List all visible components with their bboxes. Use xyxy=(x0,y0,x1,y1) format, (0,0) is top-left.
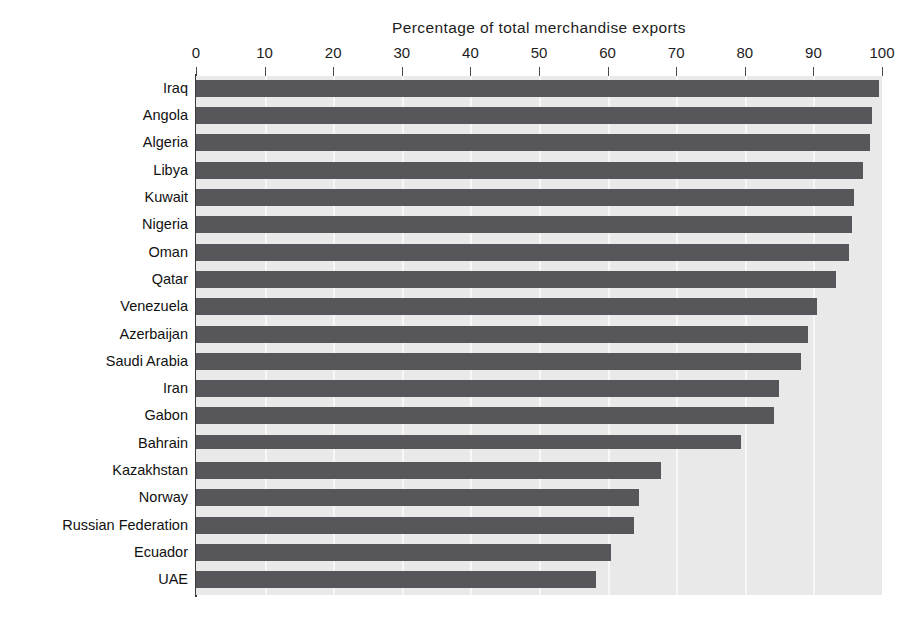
bar-libya xyxy=(196,162,863,179)
category-label-norway: Norway xyxy=(139,489,188,506)
category-label-russian-federation: Russian Federation xyxy=(62,517,188,534)
bar-oman xyxy=(196,244,849,261)
category-label-azerbaijan: Azerbaijan xyxy=(119,326,188,343)
bar-algeria xyxy=(196,134,870,151)
x-tick-mark-50 xyxy=(539,67,540,76)
category-label-qatar: Qatar xyxy=(152,271,188,288)
bar-ecuador xyxy=(196,544,611,561)
bar-norway xyxy=(196,489,639,506)
bar-kazakhstan xyxy=(196,462,661,479)
category-label-libya: Libya xyxy=(153,162,188,179)
bar-angola xyxy=(196,107,872,124)
x-tick-mark-30 xyxy=(402,67,403,76)
bar-bahrain xyxy=(196,435,741,449)
x-tick-label-60: 60 xyxy=(599,44,616,61)
x-axis-tick-marks xyxy=(0,67,920,76)
x-tick-mark-60 xyxy=(608,67,609,76)
category-label-algeria: Algeria xyxy=(143,134,188,151)
x-tick-mark-10 xyxy=(265,67,266,76)
bar-qatar xyxy=(196,271,836,288)
x-tick-mark-40 xyxy=(470,67,471,76)
category-label-uae: UAE xyxy=(158,571,188,588)
category-axis-labels: IraqAngolaAlgeriaLibyaKuwaitNigeriaOmanQ… xyxy=(0,76,188,595)
x-tick-label-40: 40 xyxy=(462,44,479,61)
plot-area xyxy=(196,76,882,595)
x-tick-label-0: 0 xyxy=(192,44,200,61)
x-tick-label-10: 10 xyxy=(256,44,273,61)
bar-kuwait xyxy=(196,189,854,206)
bar-chart: Percentage of total merchandise exports … xyxy=(0,0,920,627)
category-label-oman: Oman xyxy=(149,244,189,261)
bar-iran xyxy=(196,380,779,397)
category-label-kuwait: Kuwait xyxy=(144,189,188,206)
x-tick-label-80: 80 xyxy=(736,44,753,61)
bar-azerbaijan xyxy=(196,326,808,343)
category-label-bahrain: Bahrain xyxy=(138,435,188,452)
bar-uae xyxy=(196,571,596,588)
category-label-nigeria: Nigeria xyxy=(142,216,188,233)
x-axis-tick-labels: 0102030405060708090100 xyxy=(0,44,920,66)
x-tick-label-70: 70 xyxy=(668,44,685,61)
bar-venezuela xyxy=(196,298,817,315)
x-tick-mark-70 xyxy=(676,67,677,76)
bar-iraq xyxy=(196,80,879,97)
category-label-ecuador: Ecuador xyxy=(134,544,188,561)
bar-gabon xyxy=(196,407,774,424)
bar-russian-federation xyxy=(196,517,634,534)
bar-saudi-arabia xyxy=(196,353,801,370)
category-label-kazakhstan: Kazakhstan xyxy=(112,462,188,479)
bar-nigeria xyxy=(196,216,852,233)
category-label-iraq: Iraq xyxy=(163,80,188,97)
x-tick-label-100: 100 xyxy=(869,44,894,61)
x-tick-label-90: 90 xyxy=(805,44,822,61)
chart-title: Percentage of total merchandise exports xyxy=(196,19,882,37)
x-tick-label-20: 20 xyxy=(325,44,342,61)
gridline-90 xyxy=(813,76,815,595)
category-label-angola: Angola xyxy=(143,107,188,124)
x-tick-mark-100 xyxy=(882,67,883,76)
category-label-gabon: Gabon xyxy=(144,407,188,424)
x-tick-mark-20 xyxy=(333,67,334,76)
category-label-saudi-arabia: Saudi Arabia xyxy=(106,353,188,370)
x-tick-mark-80 xyxy=(745,67,746,76)
category-label-venezuela: Venezuela xyxy=(120,298,188,315)
category-label-iran: Iran xyxy=(163,380,188,397)
x-tick-label-30: 30 xyxy=(393,44,410,61)
x-tick-mark-90 xyxy=(813,67,814,76)
x-tick-label-50: 50 xyxy=(531,44,548,61)
